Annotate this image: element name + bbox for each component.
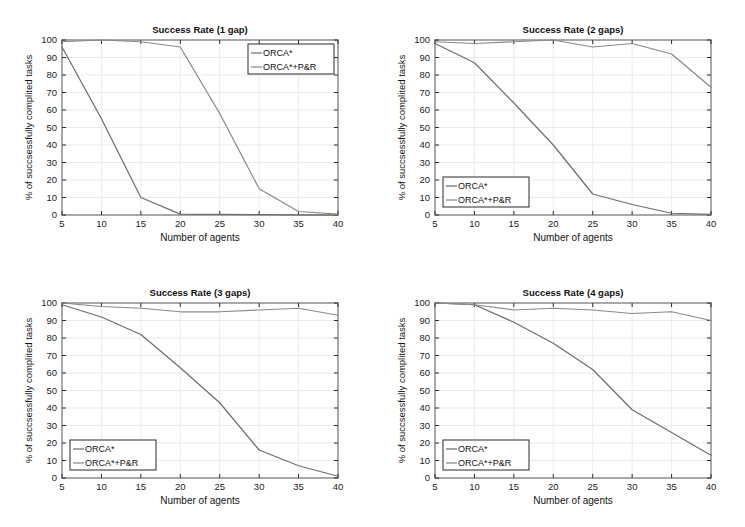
- chart-title: Success Rate (3 gaps): [150, 287, 251, 298]
- x-tick-label: 40: [333, 218, 344, 229]
- legend: ORCA*ORCA*+P&R: [443, 177, 529, 207]
- x-tick-label: 15: [136, 218, 147, 229]
- x-axis-title: Number of agents: [160, 232, 240, 243]
- x-tick-label: 40: [706, 218, 717, 229]
- y-tick-label: 30: [419, 420, 430, 431]
- y-tick-label: 90: [46, 315, 57, 326]
- chart-panel-4-gaps: Success Rate (4 gaps)5101520253035400102…: [373, 263, 745, 527]
- chart-svg-2-gaps: Success Rate (2 gaps)5101520253035400102…: [373, 0, 745, 263]
- y-tick-label: 60: [419, 367, 430, 378]
- x-tick-label: 5: [59, 218, 64, 229]
- x-axis-title: Number of agents: [533, 232, 613, 243]
- y-tick-label: 20: [419, 174, 430, 185]
- x-tick-label: 15: [509, 218, 520, 229]
- x-tick-label: 5: [432, 218, 437, 229]
- y-tick-label: 40: [419, 139, 430, 150]
- y-tick-label: 0: [52, 472, 57, 483]
- y-tick-label: 30: [419, 157, 430, 168]
- y-tick-label: 100: [414, 34, 430, 45]
- y-tick-label: 40: [46, 139, 57, 150]
- y-tick-label: 90: [46, 52, 57, 63]
- x-tick-label: 35: [293, 481, 304, 492]
- x-tick-label: 10: [96, 481, 107, 492]
- x-tick-label: 25: [214, 481, 225, 492]
- x-tick-label: 10: [469, 218, 480, 229]
- y-tick-label: 10: [419, 455, 430, 466]
- y-tick-label: 0: [425, 209, 430, 220]
- x-tick-label: 30: [627, 218, 638, 229]
- x-tick-label: 10: [96, 218, 107, 229]
- y-tick-label: 0: [52, 209, 57, 220]
- y-tick-label: 70: [46, 350, 57, 361]
- y-tick-label: 90: [419, 52, 430, 63]
- y-tick-label: 50: [419, 385, 430, 396]
- x-tick-label: 30: [627, 481, 638, 492]
- y-axis-title: % of succsessfully complited tasks: [23, 54, 34, 200]
- chart-root: Success Rate (4 gaps)5101520253035400102…: [396, 287, 716, 506]
- y-tick-label: 70: [419, 350, 430, 361]
- legend-label-2: ORCA*+P&R: [263, 62, 317, 72]
- y-tick-label: 80: [419, 69, 430, 80]
- x-tick-label: 5: [432, 481, 437, 492]
- x-tick-label: 40: [333, 481, 344, 492]
- x-tick-label: 20: [175, 218, 186, 229]
- y-tick-label: 20: [46, 174, 57, 185]
- chart-title: Success Rate (2 gaps): [523, 24, 624, 35]
- x-tick-label: 15: [136, 481, 147, 492]
- y-axis-title: % of succsessfully complited tasks: [396, 317, 407, 463]
- chart-root: Success Rate (2 gaps)5101520253035400102…: [396, 24, 716, 243]
- x-tick-label: 5: [59, 481, 64, 492]
- x-axis-title: Number of agents: [533, 495, 613, 506]
- legend-label-1: ORCA*: [85, 444, 115, 454]
- legend: ORCA*ORCA*+P&R: [248, 44, 334, 74]
- chart-root: Success Rate (3 gaps)5101520253035400102…: [23, 287, 343, 506]
- y-tick-label: 100: [41, 297, 57, 308]
- chart-panel-2-gaps: Success Rate (2 gaps)5101520253035400102…: [373, 0, 745, 263]
- x-axis-title: Number of agents: [160, 495, 240, 506]
- legend-label-2: ORCA*+P&R: [85, 458, 139, 468]
- legend-label-1: ORCA*: [458, 181, 488, 191]
- legend: ORCA*ORCA*+P&R: [443, 440, 529, 470]
- y-tick-label: 60: [46, 104, 57, 115]
- y-tick-label: 10: [46, 192, 57, 203]
- x-tick-label: 30: [254, 218, 265, 229]
- y-tick-label: 50: [419, 122, 430, 133]
- legend-label-1: ORCA*: [263, 48, 293, 58]
- y-tick-label: 60: [46, 367, 57, 378]
- chart-svg-3-gaps: Success Rate (3 gaps)5101520253035400102…: [0, 263, 373, 527]
- y-tick-label: 30: [46, 157, 57, 168]
- x-tick-label: 10: [469, 481, 480, 492]
- x-tick-label: 30: [254, 481, 265, 492]
- y-tick-label: 0: [425, 472, 430, 483]
- y-tick-label: 80: [46, 69, 57, 80]
- y-tick-label: 60: [419, 104, 430, 115]
- chart-panel-3-gaps: Success Rate (3 gaps)5101520253035400102…: [0, 263, 373, 527]
- x-tick-label: 35: [666, 481, 677, 492]
- y-tick-label: 50: [46, 122, 57, 133]
- y-tick-label: 20: [419, 437, 430, 448]
- chart-root: Success Rate (1 gap)51015202530354001020…: [23, 24, 343, 243]
- y-tick-label: 40: [46, 402, 57, 413]
- y-tick-label: 100: [414, 297, 430, 308]
- y-tick-label: 40: [419, 402, 430, 413]
- x-tick-label: 40: [706, 481, 717, 492]
- y-tick-label: 80: [419, 332, 430, 343]
- y-tick-label: 100: [41, 34, 57, 45]
- legend: ORCA*ORCA*+P&R: [70, 440, 156, 470]
- y-tick-label: 30: [46, 420, 57, 431]
- y-tick-label: 10: [419, 192, 430, 203]
- x-tick-label: 35: [666, 218, 677, 229]
- legend-label-2: ORCA*+P&R: [458, 458, 512, 468]
- chart-panel-1-gap: Success Rate (1 gap)51015202530354001020…: [0, 0, 373, 263]
- x-tick-label: 25: [587, 218, 598, 229]
- chart-svg-4-gaps: Success Rate (4 gaps)5101520253035400102…: [373, 263, 745, 527]
- chart-svg-1-gap: Success Rate (1 gap)51015202530354001020…: [0, 0, 373, 263]
- x-tick-label: 25: [214, 218, 225, 229]
- x-tick-label: 20: [175, 481, 186, 492]
- x-tick-label: 20: [548, 218, 559, 229]
- x-tick-label: 25: [587, 481, 598, 492]
- figure-grid: Success Rate (1 gap)51015202530354001020…: [0, 0, 745, 527]
- y-tick-label: 90: [419, 315, 430, 326]
- legend-label-2: ORCA*+P&R: [458, 195, 512, 205]
- y-tick-label: 50: [46, 385, 57, 396]
